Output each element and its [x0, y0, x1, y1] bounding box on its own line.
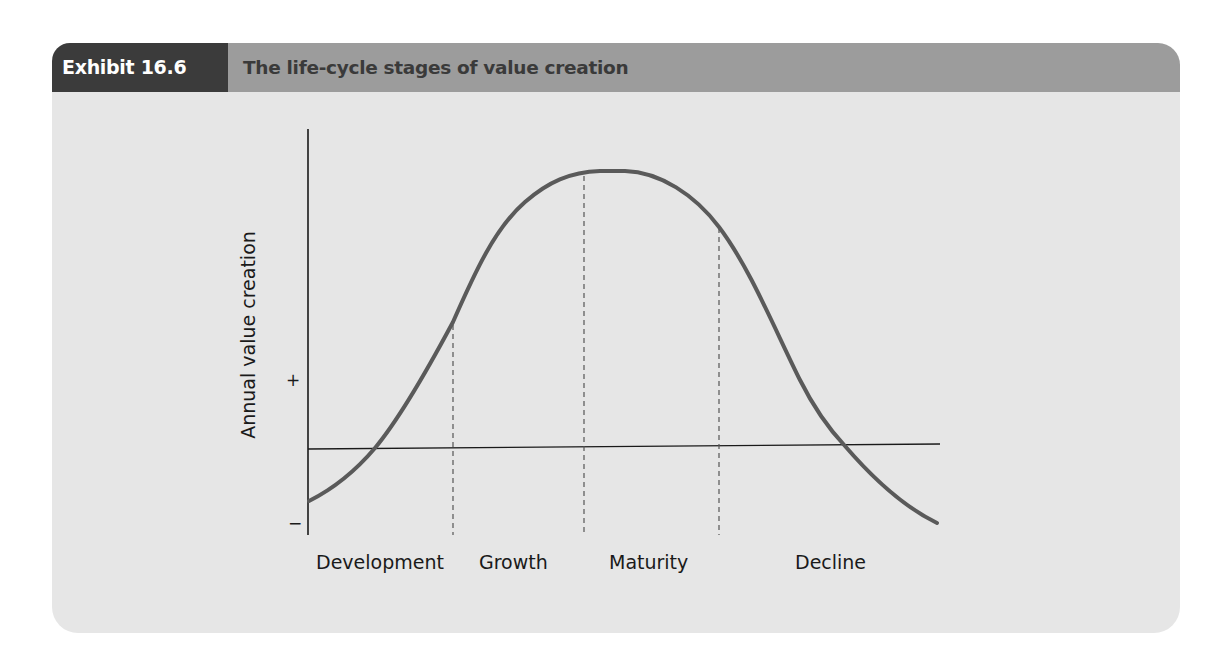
y-plus-label: + [286, 370, 300, 390]
y-minus-label: − [288, 513, 302, 533]
stage-label-maturity: Maturity [609, 551, 688, 573]
y-axis-label: Annual value creation [237, 231, 259, 439]
life-cycle-chart: Annual value creation + − Development Gr… [0, 0, 1229, 661]
value-creation-curve [309, 171, 937, 523]
stage-label-development: Development [316, 551, 444, 573]
stage-label-decline: Decline [795, 551, 866, 573]
stage-label-growth: Growth [479, 551, 548, 573]
